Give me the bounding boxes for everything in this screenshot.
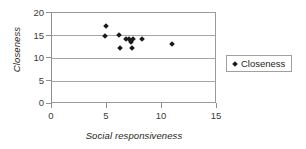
data-point [129,46,135,52]
gridline-10 [52,58,215,59]
gridline-5 [52,81,215,82]
y-tick-label-0: 0 [18,97,44,108]
x-tickmark-0 [51,103,52,108]
y-tick-label-10: 10 [18,52,44,63]
x-tick-label-5: 5 [94,110,118,121]
y-tick-label-15: 15 [18,30,44,41]
scatter-chart: Closeness 20 15 10 5 0 0 5 10 15 Social … [0,0,306,149]
y-tick-label-20: 20 [18,7,44,18]
data-point [169,41,175,47]
x-tickmark-5 [106,103,107,108]
data-point [103,33,109,39]
data-point [116,32,122,38]
x-tickmark-15 [216,103,217,108]
chart-legend: Closeness [226,55,292,72]
y-tick-label-5: 5 [18,75,44,86]
x-tick-label-15: 15 [204,110,228,121]
legend-label-closeness: Closeness [241,58,285,69]
data-point [117,46,123,52]
plot-area [51,12,216,103]
data-point [139,37,145,43]
x-tick-label-10: 10 [149,110,173,121]
x-tick-label-0: 0 [39,110,63,121]
legend-diamond-icon [232,61,238,67]
x-axis-title: Social responsiveness [51,130,217,141]
data-point [103,23,109,29]
x-tickmark-10 [161,103,162,108]
